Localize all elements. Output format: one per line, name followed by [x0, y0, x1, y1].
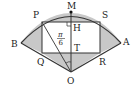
angle-denominator: 6 [59, 39, 64, 47]
label-T: T [74, 43, 80, 53]
angle-numerator: π [57, 31, 63, 39]
label-H: H [73, 23, 81, 33]
label-M: M [67, 1, 76, 11]
right-angle-mark [67, 22, 71, 26]
shaded-right-region [100, 22, 121, 53]
shaded-left-region [21, 22, 42, 53]
label-R: R [99, 57, 106, 67]
label-Q: Q [37, 57, 44, 67]
segment-OP [42, 22, 71, 72]
label-A: A [122, 37, 130, 47]
label-B: B [11, 39, 18, 49]
label-P: P [33, 10, 39, 20]
label-S: S [102, 10, 108, 20]
label-O: O [67, 76, 74, 86]
geometry-diagram: M P S B A Q R O T H π 6 [0, 0, 139, 87]
